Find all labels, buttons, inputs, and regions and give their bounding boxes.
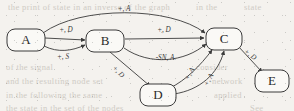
edge-A-to-B-upper (45, 38, 85, 40)
edge-label-A-to-B-lower: +, S (57, 53, 69, 61)
edge-B-to-C-upper (125, 38, 204, 39)
node-A-label: A (21, 32, 31, 47)
node-E[interactable]: E (255, 70, 289, 92)
edge-label-B-to-C-lower: -SN, A (156, 54, 175, 62)
node-C-label: C (220, 31, 229, 46)
node-B-label: B (101, 33, 110, 48)
edge-label-B-to-D: +, D (111, 64, 127, 80)
edge-label-A-to-C: +, A (118, 5, 131, 13)
graph-figure: the print of state in an inverse of the … (0, 0, 294, 111)
edge-label-B-to-C-upper: +, D (157, 26, 171, 34)
edge-label-D-to-C-outer: +, A (202, 72, 215, 88)
edge-label-A-to-B-upper: +, D (59, 26, 73, 34)
node-D[interactable]: D (140, 84, 176, 106)
edge-label-D-to-C-inner: +, A (183, 66, 196, 82)
node-C[interactable]: C (206, 28, 242, 50)
node-D-label: D (153, 87, 162, 102)
node-E-label: E (268, 73, 276, 88)
edges-group (43, 13, 262, 94)
nodes-group: A B C D E (7, 28, 289, 106)
node-A[interactable]: A (7, 29, 45, 51)
graph-canvas: +, A +, D +, S +, D -SN, A +, D +, A +, … (0, 0, 294, 111)
edge-A-to-B-lower (44, 45, 85, 50)
node-B[interactable]: B (86, 30, 124, 52)
